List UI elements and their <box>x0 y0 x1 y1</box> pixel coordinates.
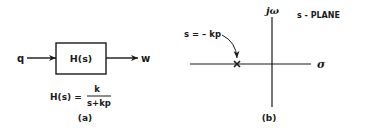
diagram-canvas: q H(s) w H(s) = k s+kp (a) jω σ s - PLAN… <box>0 0 365 131</box>
input-label-q: q <box>17 53 24 64</box>
panel-a: q H(s) w H(s) = k s+kp (a) <box>17 43 150 123</box>
block-label: H(s) <box>70 53 92 64</box>
formula-denominator: s+kp <box>87 98 111 108</box>
panel-b: jω σ s - PLANE s = – kp (b) <box>184 5 340 123</box>
formula-lhs: H(s) = <box>50 92 82 102</box>
imaginary-axis-label: jω <box>264 5 280 16</box>
caption-b: (b) <box>262 113 277 123</box>
output-label-w: w <box>141 53 150 64</box>
plane-label: s - PLANE <box>297 11 340 20</box>
real-axis-label: σ <box>317 58 326 71</box>
pole-pointer-arrow <box>222 35 237 58</box>
formula-numerator: k <box>94 84 100 94</box>
pole-label: s = – kp <box>184 29 221 39</box>
caption-a: (a) <box>78 113 92 123</box>
